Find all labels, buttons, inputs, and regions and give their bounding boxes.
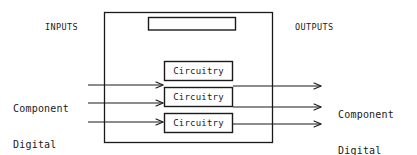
outputs-section-label: OUTPUTS: [295, 21, 334, 33]
circuitry-block-label: Circuitry: [164, 91, 233, 103]
output-signal-label-line2: Digital: [338, 145, 394, 155]
input-signal-label: Component Digital: [13, 79, 69, 155]
inputs-section-label: INPUTS: [45, 21, 78, 33]
input-signal-label-line1: Component: [13, 103, 69, 115]
circuitry-block-label: Circuitry: [164, 65, 233, 77]
input-signal-label-line2: Digital: [13, 139, 69, 151]
top-empty-box: [149, 18, 236, 31]
output-signal-label: Component Digital: [338, 85, 394, 155]
output-signal-label-line1: Component: [338, 109, 394, 121]
circuitry-block-label: Circuitry: [164, 117, 233, 129]
diagram-canvas: INPUTS OUTPUTS Component Digital Compone…: [0, 0, 417, 155]
